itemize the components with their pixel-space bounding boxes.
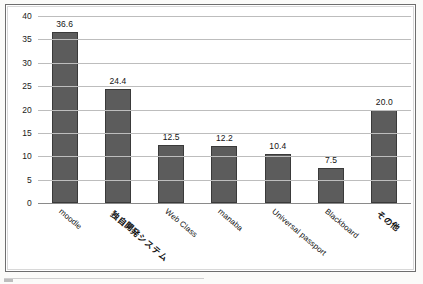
- gridline-10: 10: [38, 156, 411, 157]
- y-axis-tick-label: 10: [22, 151, 32, 161]
- x-label-slot: その他: [358, 205, 411, 271]
- gridline-20: 20: [38, 110, 411, 111]
- y-axis-tick-label: 30: [22, 58, 32, 68]
- x-label-slot: Blackboard: [304, 205, 357, 271]
- gridline-25: 25: [38, 86, 411, 87]
- x-axis-category-label: Blackboard: [323, 207, 360, 240]
- bar-value-label: 24.4: [109, 76, 126, 86]
- x-label-slot: Web Class: [145, 205, 198, 271]
- bar-value-label: 12.2: [216, 133, 233, 143]
- y-axis-tick-label: 20: [22, 105, 32, 115]
- bar[interactable]: [105, 89, 131, 203]
- gridline-0: 0: [38, 203, 411, 204]
- bar-chart: 36.624.412.512.210.47.520.0 403530252015…: [5, 4, 416, 272]
- bar[interactable]: [211, 146, 237, 203]
- scan-mark: [4, 279, 13, 282]
- x-label-slot: 独自開発システム: [91, 205, 144, 271]
- bar-value-label: 20.0: [376, 97, 393, 107]
- y-axis-tick-label: 0: [27, 198, 32, 208]
- gridline-40: 40: [38, 16, 411, 17]
- bar[interactable]: [318, 168, 344, 203]
- gridline-35: 35: [38, 39, 411, 40]
- bar[interactable]: [158, 145, 184, 203]
- bar-value-label: 36.6: [56, 19, 73, 29]
- scan-smear: [4, 278, 204, 279]
- y-axis-tick-label: 35: [22, 34, 32, 44]
- x-axis-category-label: manaba: [217, 207, 245, 233]
- scanned-page-background: 36.624.412.512.210.47.520.0 403530252015…: [0, 0, 423, 284]
- x-axis-labels: moodle独自開発システムWeb ClassmanabaUniversal p…: [38, 205, 411, 271]
- x-axis-category-label: Web Class: [163, 207, 199, 239]
- plot-area: 36.624.412.512.210.47.520.0 403530252015…: [38, 16, 411, 203]
- x-label-slot: manaba: [198, 205, 251, 271]
- bar-value-label: 10.4: [269, 141, 286, 151]
- y-axis-tick-label: 5: [27, 175, 32, 185]
- y-axis-tick-label: 40: [22, 11, 32, 21]
- x-axis-category-label: その他: [375, 207, 404, 234]
- y-axis-tick-label: 25: [22, 81, 32, 91]
- x-axis-category-label: moodle: [57, 207, 83, 231]
- x-label-slot: moodle: [38, 205, 91, 271]
- scan-artifact-strip: [0, 275, 423, 284]
- y-axis-tick-label: 15: [22, 128, 32, 138]
- bar[interactable]: [52, 32, 78, 203]
- x-label-slot: Universal passport: [251, 205, 304, 271]
- gridline-30: 30: [38, 63, 411, 64]
- gridline-15: 15: [38, 133, 411, 134]
- gridline-5: 5: [38, 180, 411, 181]
